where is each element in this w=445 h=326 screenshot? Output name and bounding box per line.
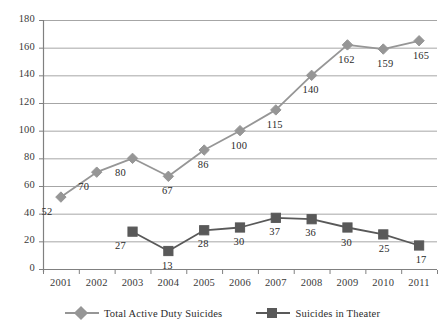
square-marker[interactable]: [343, 223, 352, 232]
x-tick-label: 2002: [77, 277, 117, 288]
data-point-label: 52: [30, 206, 64, 217]
chart-legend: Total Active Duty SuicidesSuicides in Th…: [0, 303, 445, 323]
data-point-label: 86: [186, 159, 220, 170]
data-point-label: 30: [222, 236, 256, 247]
x-tick-label: 2011: [399, 277, 439, 288]
square-marker[interactable]: [414, 241, 423, 250]
y-tick-label: 80: [5, 151, 35, 162]
square-marker[interactable]: [164, 246, 173, 255]
x-tick-label: 2004: [148, 277, 188, 288]
diamond-marker[interactable]: [56, 192, 66, 202]
data-point-label: 165: [404, 50, 438, 61]
diamond-icon: [74, 306, 88, 320]
x-tick-label: 2008: [292, 277, 332, 288]
diamond-marker[interactable]: [235, 125, 245, 135]
y-tick-label: 140: [5, 68, 35, 79]
legend-swatch: [65, 307, 99, 319]
square-marker[interactable]: [200, 226, 209, 235]
data-point-label: 25: [367, 243, 401, 254]
x-tick-label: 2010: [363, 277, 403, 288]
legend-swatch: [256, 307, 290, 319]
square-marker[interactable]: [271, 213, 280, 222]
data-point-label: 70: [67, 181, 101, 192]
y-tick-label: 180: [5, 13, 35, 24]
data-point-label: 115: [258, 119, 292, 130]
square-icon: [267, 308, 277, 318]
data-point-label: 37: [258, 226, 292, 237]
legend-label: Suicides in Theater: [295, 308, 380, 319]
legend-entry[interactable]: Total Active Duty Suicides: [65, 307, 223, 319]
diamond-marker[interactable]: [378, 44, 388, 54]
y-tick-label: 0: [5, 262, 35, 273]
y-tick-label: 20: [5, 234, 35, 245]
square-marker[interactable]: [379, 230, 388, 239]
data-point-label: 159: [368, 58, 402, 69]
data-point-label: 100: [222, 140, 256, 151]
x-tick-label: 2001: [41, 277, 81, 288]
y-tick-label: 60: [5, 179, 35, 190]
data-point-label: 30: [329, 237, 363, 248]
x-tick-label: 2009: [327, 277, 367, 288]
y-tick-label: 120: [5, 96, 35, 107]
data-point-label: 36: [294, 227, 328, 238]
diamond-marker[interactable]: [127, 153, 137, 163]
data-point-label: 80: [104, 167, 138, 178]
data-point-label: 27: [104, 240, 138, 251]
x-tick-label: 2003: [113, 277, 153, 288]
square-marker[interactable]: [128, 227, 137, 236]
x-tick-label: 2007: [256, 277, 296, 288]
line-chart: 180160140120100806040200 200120022003200…: [0, 0, 445, 326]
y-tick-label: 100: [5, 124, 35, 135]
legend-entry[interactable]: Suicides in Theater: [256, 307, 380, 319]
data-point-label: 162: [329, 54, 363, 65]
data-point-label: 17: [404, 254, 438, 265]
data-point-label: 28: [186, 238, 220, 249]
data-point-label: 13: [150, 260, 184, 271]
y-tick-label: 160: [5, 41, 35, 52]
square-marker[interactable]: [307, 215, 316, 224]
data-point-label: 140: [294, 84, 328, 95]
x-tick-label: 2006: [220, 277, 260, 288]
square-marker[interactable]: [235, 223, 244, 232]
legend-label: Total Active Duty Suicides: [104, 308, 223, 319]
diamond-marker[interactable]: [414, 36, 424, 46]
x-tick-label: 2005: [184, 277, 224, 288]
data-point-label: 67: [150, 185, 184, 196]
